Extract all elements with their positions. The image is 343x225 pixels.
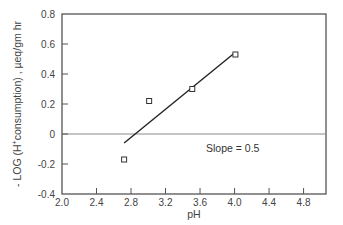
data-point-square — [190, 87, 195, 92]
x-tick-label: 3.2 — [159, 197, 173, 208]
plot-frame — [62, 14, 326, 194]
y-tick-label: 0.2 — [41, 99, 55, 110]
y-tick-label: -0.2 — [38, 159, 56, 170]
data-point-square — [233, 52, 238, 57]
y-tick-label: 0.8 — [41, 9, 55, 20]
fit-line — [124, 53, 234, 143]
x-tick-label: 4.4 — [262, 197, 276, 208]
y-tick-label: -0.4 — [38, 189, 56, 200]
y-axis-label: - LOG (H+consumption) , µeq/gm hr — [11, 21, 23, 187]
y-tick-label: 0 — [49, 129, 55, 140]
scatter-chart: 2.02.42.83.23.64.04.44.8 0.80.60.40.20-0… — [0, 0, 343, 225]
y-axis-ticks: 0.80.60.40.20-0.2-0.4 — [38, 9, 68, 200]
x-axis-ticks: 2.02.42.83.23.64.04.44.8 — [55, 188, 311, 208]
x-tick-label: 4.0 — [228, 197, 242, 208]
x-tick-label: 3.6 — [193, 197, 207, 208]
x-tick-label: 2.0 — [55, 197, 69, 208]
y-tick-label: 0.6 — [41, 39, 55, 50]
x-tick-label: 4.8 — [297, 197, 311, 208]
x-axis-label: pH — [187, 208, 200, 220]
data-point-square — [147, 99, 152, 104]
data-point-square — [122, 157, 127, 162]
x-tick-label: 2.4 — [90, 197, 104, 208]
y-tick-label: 0.4 — [41, 69, 55, 80]
x-tick-label: 2.8 — [124, 197, 138, 208]
slope-annotation: Slope = 0.5 — [206, 142, 260, 154]
